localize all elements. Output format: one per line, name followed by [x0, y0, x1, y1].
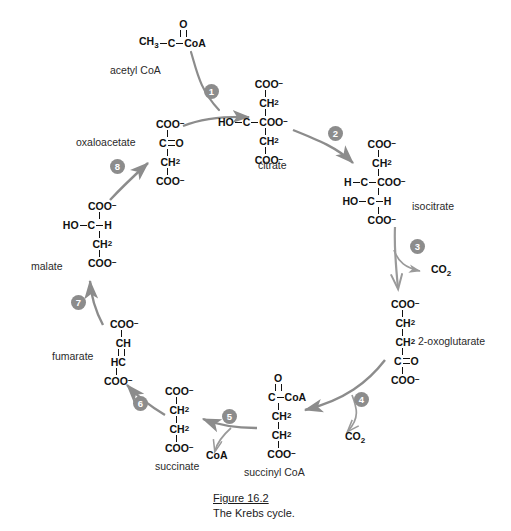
label-isocitrate: isocitrate [412, 200, 454, 212]
acetyl-coa-carbonyl-c: C [168, 38, 176, 49]
label-malate: malate [31, 260, 63, 272]
label-succinate: succinate [155, 460, 199, 472]
molecule-isocitrate: COO− CH2 HCCOO− HOCH COO− [350, 138, 406, 226]
krebs-cycle-figure: O CH3CCoA acetyl CoA COO− CH2 HOCCOO− CH… [0, 0, 511, 531]
arrow-step-4 [305, 360, 385, 431]
step-badge-1[interactable]: 1 [204, 84, 219, 99]
label-oxaloacetate: oxaloacetate [76, 136, 136, 148]
product-co2-step3: CO2 [431, 263, 451, 278]
product-co2-step4: CO2 [345, 430, 365, 445]
step-badge-7[interactable]: 7 [71, 295, 86, 310]
acetyl-coa-coa: CoA [184, 38, 206, 49]
molecule-succinate: COO− CH2 CH2 COO− [160, 385, 194, 454]
label-2-oxoglutarate: 2-oxoglutarate [418, 335, 485, 347]
molecule-oxaloacetate: COO− CO CH2 COO− [148, 118, 185, 187]
label-acetyl-coa: acetyl CoA [110, 64, 161, 76]
step-badge-4[interactable]: 4 [354, 392, 369, 407]
arrow-step-3 [394, 227, 420, 288]
label-citrate: citrate [258, 159, 287, 171]
molecule-succinyl-coa: O CCoA CH2 CH2 COO− [262, 372, 306, 460]
step-badge-6[interactable]: 6 [133, 396, 148, 411]
acetyl-coa-oxygen: O [179, 19, 187, 30]
acetyl-coa-methyl: CH3 [139, 36, 159, 50]
molecule-fumarate: COO− CH HC COO− [100, 318, 139, 387]
molecule-malate: COO− HOCH CH2 COO− [80, 200, 117, 269]
figure-caption: Figure 16.2 The Krebs cycle. [213, 492, 295, 519]
figure-title: The Krebs cycle. [213, 507, 295, 519]
product-coa-step5: CoA [206, 449, 228, 461]
figure-number: Figure 16.2 [213, 492, 295, 504]
step-badge-8[interactable]: 8 [110, 159, 125, 174]
label-fumarate: fumarate [52, 350, 93, 362]
citrate-hydroxyl: HO [218, 117, 234, 128]
molecule-2-oxoglutarate: COO− CH2 CH2 CO COO− [383, 298, 420, 386]
molecule-citrate: COO− CH2 HOCCOO− CH2 COO− [240, 78, 288, 166]
step-badge-3[interactable]: 3 [410, 239, 425, 254]
arrow-step-2 [293, 130, 353, 163]
label-succinyl-coa: succinyl CoA [244, 466, 305, 478]
acetyl-coa-backbone: CH3CCoA [139, 37, 206, 49]
step-badge-2[interactable]: 2 [328, 126, 343, 141]
step-badge-5[interactable]: 5 [222, 409, 237, 424]
double-bond [180, 30, 187, 37]
molecule-acetyl-coa: O CH3CCoA [139, 18, 206, 49]
